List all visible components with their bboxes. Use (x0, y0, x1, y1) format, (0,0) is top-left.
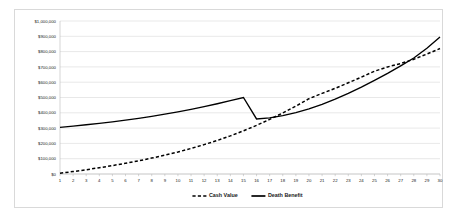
x-axis-tick-label: 13 (215, 178, 220, 183)
plot-area: $0$100,000$200,000$300,000$400,000$500,0… (15, 10, 444, 209)
x-axis-tick-label: 26 (385, 178, 390, 183)
x-axis-tick-label: 14 (228, 178, 233, 183)
x-axis-tick-label: 11 (189, 178, 194, 183)
x-axis-tick-label: 12 (202, 178, 207, 183)
x-axis-tick-label: 9 (164, 178, 167, 183)
x-axis-tick-label: 17 (267, 178, 272, 183)
y-axis-tick-label: $400,000 (38, 110, 57, 115)
x-axis-tick-label: 22 (333, 178, 338, 183)
x-axis-tick-label: 3 (85, 178, 88, 183)
x-axis-tick-label: 23 (346, 178, 351, 183)
y-axis-tick-label: $0 (51, 172, 56, 177)
x-axis-tick-label: 25 (372, 178, 377, 183)
y-axis-tick-label: $500,000 (38, 95, 57, 100)
x-axis-tick-label: 10 (176, 178, 181, 183)
x-axis-tick-label: 18 (280, 178, 285, 183)
y-axis-tick-label: $800,000 (38, 49, 57, 54)
chart-container: $0$100,000$200,000$300,000$400,000$500,0… (14, 9, 443, 208)
y-axis-tick-label: $600,000 (38, 80, 57, 85)
y-axis-tick-label: $1,000,000 (34, 19, 56, 24)
x-axis-tick-label: 16 (254, 178, 259, 183)
y-axis-tick-label: $300,000 (38, 126, 57, 131)
x-axis-tick-label: 5 (111, 178, 114, 183)
x-axis-tick-label: 19 (293, 178, 298, 183)
x-axis-tick-label: 2 (72, 178, 75, 183)
x-axis-tick-label: 7 (137, 178, 140, 183)
y-axis-tick-label: $200,000 (38, 141, 57, 146)
y-axis-tick-label: $100,000 (38, 156, 57, 161)
x-axis-tick-label: 4 (98, 178, 101, 183)
x-axis-tick-label: 15 (241, 178, 246, 183)
x-axis-tick-label: 27 (398, 178, 403, 183)
x-axis-tick-label: 24 (359, 178, 364, 183)
x-axis-tick-label: 6 (124, 178, 127, 183)
x-axis-tick-label: 20 (307, 178, 312, 183)
legend-label-cash-value: Cash Value (209, 192, 238, 198)
x-axis-tick-label: 21 (320, 178, 325, 183)
line-chart: $0$100,000$200,000$300,000$400,000$500,0… (15, 10, 444, 209)
x-axis-tick-label: 8 (151, 178, 154, 183)
x-axis-tick-label: 1 (59, 178, 62, 183)
x-axis-tick-label: 28 (411, 178, 416, 183)
x-axis-tick-label: 30 (438, 178, 443, 183)
x-axis-tick-label: 29 (425, 178, 430, 183)
y-axis-tick-label: $900,000 (38, 34, 57, 39)
series-line-cash-value (60, 49, 440, 174)
y-axis-tick-label: $700,000 (38, 65, 57, 70)
legend-label-death-benefit: Death Benefit (268, 192, 303, 198)
